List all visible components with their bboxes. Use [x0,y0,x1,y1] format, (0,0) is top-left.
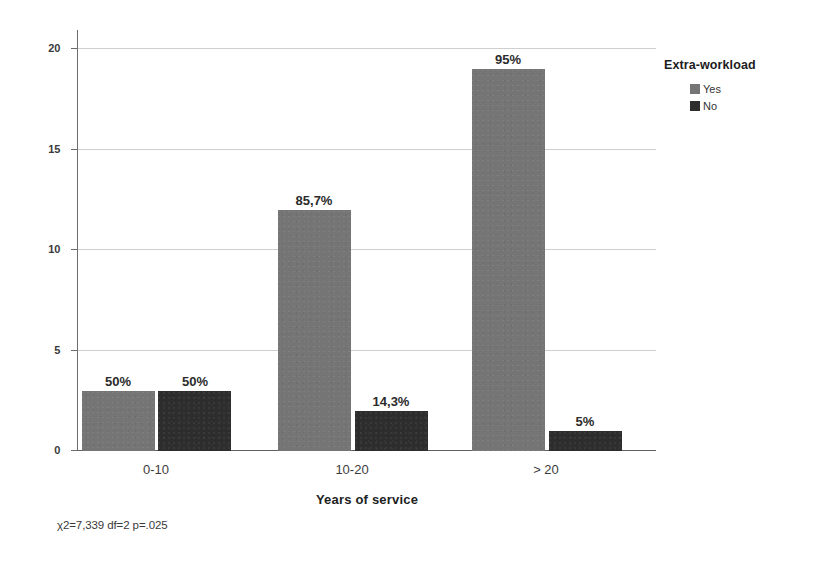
gridline-15 [78,149,656,150]
bar-no-10-20[interactable] [355,411,428,451]
x-axis-label-10-20: 10-20 [335,462,368,477]
plot-area: 50% 50% 85,7% 14,3% 95% 5% [78,30,656,451]
legend-item-yes[interactable]: Yes [690,81,809,96]
bar-no-gt-20[interactable] [549,431,622,451]
bar-chart-figure: 0 5 10 15 20 50% 50% 85,7% 14,3% 95% 5% … [0,0,813,563]
y-tick-20 [71,48,78,49]
legend-label-yes: Yes [703,83,721,95]
x-axis-label-gt-20: > 20 [533,462,559,477]
chi-square-annotation: χ2=7,339 df=2 p=.025 [57,519,168,531]
x-axis-title: Years of service [0,492,734,507]
bar-label-yes-gt-20: 95% [495,52,521,67]
legend-label-no: No [703,100,717,112]
y-tick-10 [71,249,78,250]
bar-yes-10-20[interactable] [278,210,351,451]
legend-title: Extra-workload [664,58,809,72]
y-tick-label-10: 10 [20,243,60,255]
y-tick-15 [71,149,78,150]
bar-label-yes-0-10: 50% [105,374,131,389]
bar-label-yes-10-20: 85,7% [296,193,333,208]
legend: Extra-workload Yes No [664,58,809,115]
y-tick-label-5: 5 [20,344,60,356]
bar-no-0-10[interactable] [158,391,231,451]
bar-label-no-10-20: 14,3% [373,394,410,409]
gridline-10 [78,249,656,250]
y-tick-label-15: 15 [20,143,60,155]
legend-items: Yes No [690,81,809,113]
y-tick-5 [71,350,78,351]
y-tick-0 [71,450,78,451]
bar-yes-0-10[interactable] [82,391,155,451]
bar-yes-gt-20[interactable] [472,69,545,451]
y-tick-label-20: 20 [20,42,60,54]
legend-swatch-no-icon [690,101,700,111]
gridline-5 [78,350,656,351]
x-axis-label-0-10: 0-10 [143,462,169,477]
y-tick-label-0: 0 [20,444,60,456]
bar-label-no-0-10: 50% [182,374,208,389]
legend-item-no[interactable]: No [690,98,809,113]
gridline-20 [78,48,656,49]
legend-swatch-yes-icon [690,84,700,94]
bar-label-no-gt-20: 5% [576,414,595,429]
